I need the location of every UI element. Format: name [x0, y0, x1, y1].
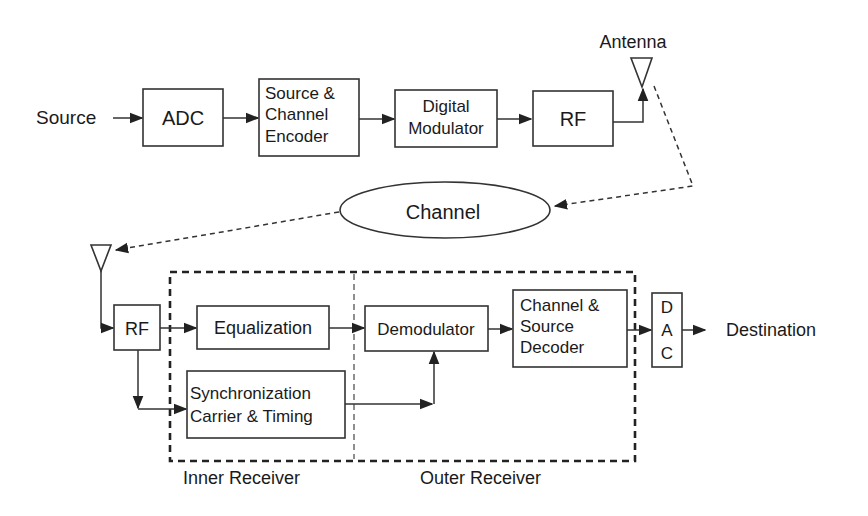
sync-line-2: Carrier & Timing — [190, 407, 313, 426]
tx-rf-block: RF — [533, 91, 613, 146]
encoder-line-2: Channel — [265, 105, 328, 124]
encoder-line-3: Encoder — [265, 127, 329, 146]
rx-rf-block: RF — [114, 305, 160, 350]
demodulator-block: Demodulator — [365, 306, 488, 351]
channel-to-rx-wireless-link — [116, 212, 339, 250]
source-channel-encoder-block: Source & Channel Encoder — [259, 79, 359, 156]
dac-letter-a: A — [661, 321, 673, 340]
adc-label: ADC — [162, 107, 204, 129]
antenna-label: Antenna — [599, 32, 667, 52]
source-label: Source — [36, 107, 96, 128]
modulator-line-2: Modulator — [408, 119, 484, 138]
rf-to-antenna-arrow — [613, 89, 643, 122]
channel-label: Channel — [406, 201, 481, 223]
outer-receiver-label: Outer Receiver — [420, 468, 541, 488]
encoder-line-1: Source & — [265, 84, 336, 103]
equalization-block: Equalization — [197, 306, 329, 349]
demodulator-label: Demodulator — [377, 320, 475, 339]
tx-antenna-icon — [631, 58, 652, 87]
tx-rf-label: RF — [560, 108, 587, 130]
equalization-label: Equalization — [214, 318, 312, 338]
modulator-line-1: Digital — [422, 97, 469, 116]
rx-rf-label: RF — [125, 319, 149, 339]
communication-block-diagram: Source ADC Source & Channel Encoder Digi… — [0, 0, 868, 516]
dac-letter-c: C — [661, 344, 673, 363]
decoder-line-3: Decoder — [520, 338, 585, 357]
sync-line-1: Synchronization — [190, 384, 311, 403]
decoder-line-1: Channel & — [520, 296, 600, 315]
destination-label: Destination — [726, 320, 816, 340]
adc-block: ADC — [143, 89, 223, 146]
digital-modulator-block: Digital Modulator — [395, 90, 497, 147]
decoder-line-2: Source — [520, 317, 574, 336]
dac-block: D A C — [652, 293, 682, 367]
synchronization-block: Synchronization Carrier & Timing — [187, 371, 345, 438]
dac-letter-d: D — [661, 298, 673, 317]
rx-antenna-icon — [91, 245, 111, 271]
antenna-to-rx-rf-arrow — [101, 271, 113, 328]
channel-source-decoder-block: Channel & Source Decoder — [513, 290, 627, 367]
inner-receiver-label: Inner Receiver — [183, 468, 300, 488]
channel-ellipse: Channel — [340, 182, 550, 238]
